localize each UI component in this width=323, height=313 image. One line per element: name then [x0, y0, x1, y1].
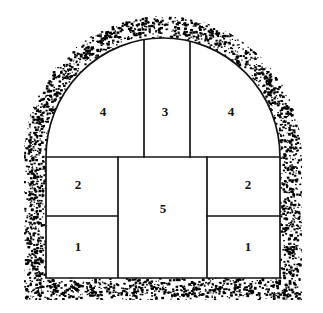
- section-middle-left-label: 2: [75, 177, 82, 192]
- tunnel-cross-section-figure: 11223445: [0, 0, 323, 313]
- section-crown-right-label: 4: [228, 104, 235, 119]
- section-core-center-label: 5: [160, 201, 167, 216]
- section-lower-left-label: 1: [75, 239, 82, 254]
- section-lower-right-label: 1: [245, 239, 252, 254]
- section-middle-right-label: 2: [245, 177, 252, 192]
- section-crown-left-label: 4: [100, 104, 107, 119]
- tunnel-diagram-canvas: 11223445: [0, 0, 323, 313]
- section-crown-center-label: 3: [162, 104, 169, 119]
